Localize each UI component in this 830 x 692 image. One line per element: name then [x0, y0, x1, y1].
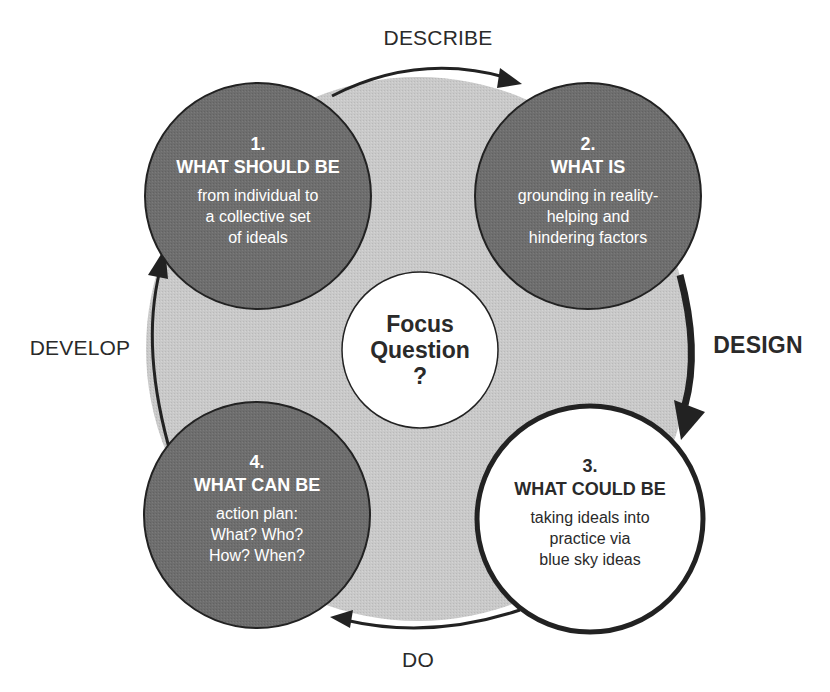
node-desc-line: practice via: [485, 528, 695, 549]
node-number: 1.: [153, 133, 363, 155]
phase-label-describe: DESCRIBE: [384, 26, 493, 50]
node-desc-line: helping and: [483, 206, 693, 227]
node-desc-line: a collective set: [153, 206, 363, 227]
focus-line-1: Focus: [350, 311, 490, 337]
focus-line-3: ?: [350, 363, 490, 389]
node-number: 3.: [485, 455, 695, 477]
node-number: 2.: [483, 133, 693, 155]
node-desc-line: What? Who?: [152, 524, 362, 545]
node-what-could-be: 3. WHAT COULD BE taking ideals into prac…: [485, 455, 695, 570]
node-desc-line: of ideals: [153, 227, 363, 248]
node-title: WHAT COULD BE: [485, 477, 695, 501]
phase-label-do: DO: [402, 648, 434, 672]
node-title: WHAT SHOULD BE: [153, 155, 363, 179]
arrowhead-design-icon: [674, 400, 705, 440]
node-what-should-be: 1. WHAT SHOULD BE from individual to a c…: [153, 133, 363, 248]
node-desc-line: How? When?: [152, 545, 362, 566]
phase-label-design: DESIGN: [713, 332, 802, 359]
node-desc-line: taking ideals into: [485, 507, 695, 528]
node-title: WHAT CAN BE: [152, 473, 362, 497]
node-desc-line: hindering factors: [483, 227, 693, 248]
focus-line-2: Question: [350, 337, 490, 363]
node-desc-line: grounding in reality-: [483, 185, 693, 206]
node-what-can-be: 4. WHAT CAN BE action plan: What? Who? H…: [152, 451, 362, 566]
node-desc-line: action plan:: [152, 503, 362, 524]
focus-question-text: Focus Question ?: [350, 311, 490, 389]
node-number: 4.: [152, 451, 362, 473]
node-title: WHAT IS: [483, 155, 693, 179]
node-what-is: 2. WHAT IS grounding in reality- helping…: [483, 133, 693, 248]
node-desc-line: from individual to: [153, 185, 363, 206]
phase-label-develop: DEVELOP: [30, 336, 131, 360]
node-desc-line: blue sky ideas: [485, 549, 695, 570]
arrowhead-describe-icon: [497, 68, 522, 88]
